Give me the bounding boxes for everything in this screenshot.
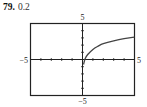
- y-max-label: 5: [81, 13, 85, 22]
- function-curve: [84, 37, 135, 64]
- x-max-label: 5: [137, 56, 141, 65]
- graph: 5 −5 −5 5: [0, 0, 147, 107]
- x-min-label: −5: [19, 56, 28, 65]
- y-min-label: −5: [78, 97, 87, 106]
